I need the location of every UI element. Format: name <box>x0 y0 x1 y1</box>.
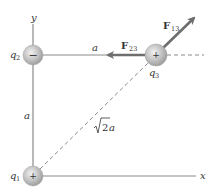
f13-subscript: 13 <box>171 25 179 33</box>
f23-subscript: 23 <box>129 45 137 53</box>
force-f23: F 23 <box>108 40 146 55</box>
diagonal-var: a <box>109 122 115 133</box>
q3-subscript: 3 <box>155 72 159 80</box>
charge-q3: + q 3 <box>145 44 167 80</box>
dashed-diagonal <box>40 62 149 169</box>
q2-sign-minus-icon: − <box>28 49 37 62</box>
q2-subscript: 2 <box>16 54 20 62</box>
x-axis-label: x <box>200 170 206 181</box>
charge-q2: − q 2 <box>10 45 43 65</box>
distance-vertical-a: a <box>24 110 30 121</box>
charge-diagram: y x F 23 F 13 a a 2 a − q 2 + q <box>0 0 212 191</box>
distance-horizontal-a: a <box>92 42 98 53</box>
charge-q1: + q 1 <box>10 166 43 186</box>
diagonal-root: 2 <box>102 122 108 133</box>
q1-sign-plus-icon: + <box>29 171 37 181</box>
f13-label: F <box>163 20 170 31</box>
f23-label: F <box>121 40 128 51</box>
x-axis: x <box>33 170 206 181</box>
y-axis: y <box>30 12 37 186</box>
q1-subscript: 1 <box>16 175 20 183</box>
y-axis-label: y <box>30 12 37 23</box>
q3-sign-plus-icon: + <box>152 50 160 60</box>
distance-diagonal: 2 a <box>94 118 115 133</box>
force-f13: F 13 <box>163 18 194 48</box>
